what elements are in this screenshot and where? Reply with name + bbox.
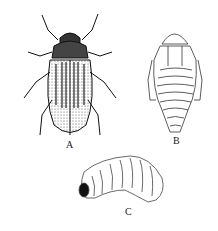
- label-c: C: [125, 206, 132, 217]
- pupa-drawing: [148, 34, 202, 132]
- larva-drawing: [79, 156, 163, 202]
- illustration: [0, 0, 218, 231]
- adult-beetle-drawing: [24, 14, 116, 135]
- label-b: B: [173, 135, 180, 146]
- label-a: A: [66, 139, 73, 150]
- insect-life-stages-figure: A B C: [0, 0, 218, 231]
